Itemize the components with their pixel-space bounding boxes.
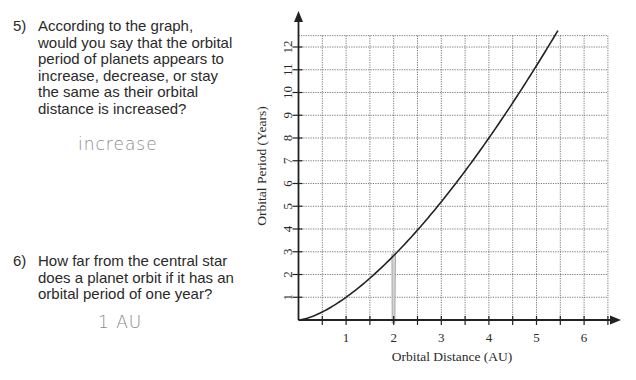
y-tick-label: 12 [280, 41, 295, 54]
data-curve [299, 31, 558, 320]
x-tick-label: 1 [343, 330, 350, 345]
x-axis-arrow-icon [610, 316, 621, 325]
y-axis-arrow-icon [294, 11, 303, 22]
y-tick-label: 4 [280, 225, 295, 232]
x-tick-label: 3 [438, 330, 445, 345]
x-tick-label: 4 [486, 330, 493, 345]
y-tick-label: 1 [280, 294, 295, 301]
y-axis-label: Orbital Period (Years) [254, 106, 269, 225]
y-tick-label: 6 [280, 180, 295, 187]
orbital-chart: 123456123456789101112 Orbital Distance (… [0, 0, 636, 380]
x-tick-label: 2 [390, 330, 397, 345]
x-tick-label: 5 [533, 330, 540, 345]
x-tick-label: 6 [581, 330, 588, 345]
period-curve [299, 31, 558, 320]
y-tick-label: 8 [280, 135, 295, 142]
y-tick-label: 2 [280, 271, 295, 278]
grid-lines [299, 36, 608, 323]
y-tick-label: 10 [280, 86, 295, 99]
axes [293, 11, 622, 325]
y-tick-label: 7 [280, 157, 295, 164]
y-tick-label: 11 [280, 63, 295, 76]
tick-labels: 123456123456789101112 [280, 41, 588, 346]
pencil-mark [392, 254, 396, 323]
y-tick-label: 9 [280, 112, 295, 119]
y-tick-label: 3 [280, 249, 295, 256]
x-axis-label: Orbital Distance (AU) [392, 349, 513, 364]
y-tick-label: 5 [280, 203, 295, 210]
